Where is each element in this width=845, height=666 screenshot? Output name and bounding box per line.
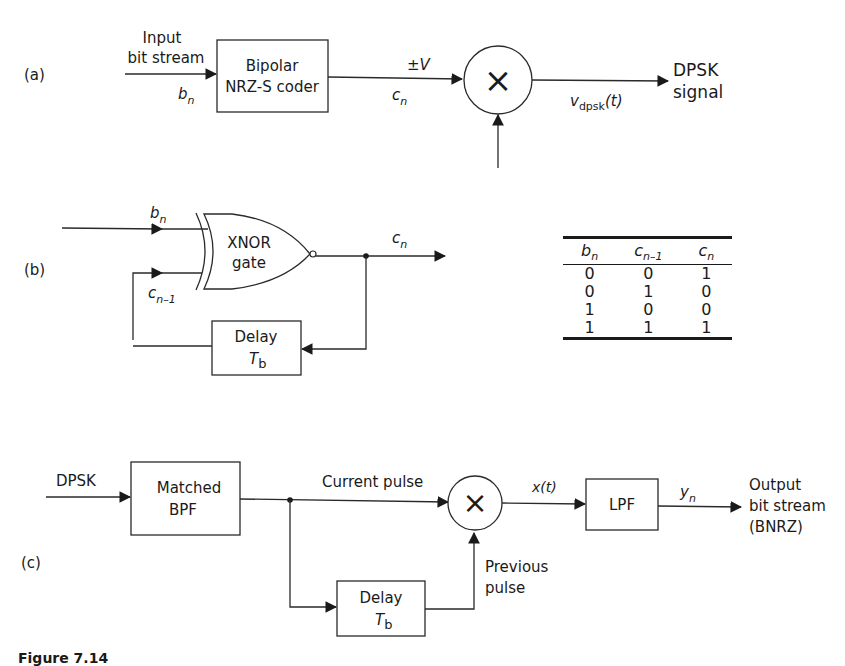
truth-table-header-bn: bn bbox=[563, 238, 616, 265]
coder-out-voltage: ±V bbox=[407, 56, 432, 74]
truth-table-cell: 0 bbox=[616, 301, 680, 319]
feedback-symbol: cn–1 bbox=[148, 284, 176, 306]
delay-b-label: Delay bbox=[234, 328, 277, 346]
panel-label-c: (c) bbox=[21, 554, 41, 572]
current-pulse-arrow bbox=[240, 499, 448, 502]
truth-table-header-cn: cn bbox=[680, 238, 732, 265]
previous-pulse-arrow bbox=[425, 533, 474, 609]
multiplier-c-symbol: × bbox=[462, 485, 487, 520]
input-symbol-a: bn bbox=[178, 85, 195, 107]
truth-table-cell: 1 bbox=[680, 319, 732, 339]
output-label-line3: (BNRZ) bbox=[749, 518, 803, 536]
multiplier-a-symbol: × bbox=[484, 60, 513, 100]
truth-table-cell: 1 bbox=[563, 319, 616, 339]
multiplier-output-symbol: x(t) bbox=[531, 479, 557, 495]
previous-pulse-label-line1: Previous bbox=[485, 558, 549, 576]
truth-table-cell: 1 bbox=[616, 319, 680, 339]
current-pulse-label: Current pulse bbox=[322, 473, 423, 491]
coder-to-multiplier-arrow bbox=[328, 77, 462, 79]
truth-table-row: 0 1 0 bbox=[563, 283, 732, 301]
previous-pulse-label-line2: pulse bbox=[485, 579, 525, 597]
dpsk-output-label-line2: signal bbox=[673, 82, 723, 102]
branch-to-delay-arrow bbox=[290, 500, 336, 607]
matched-bpf-label-line1: Matched bbox=[157, 479, 222, 497]
lpf-label: LPF bbox=[609, 496, 635, 514]
diagram-a: (a) Input bit stream bn Bipolar NRZ-S co… bbox=[24, 29, 723, 168]
xnor-truth-table: bn cn–1 cn 0 0 1 0 1 0 1 0 0 1 1 1 bbox=[563, 236, 732, 340]
multiplier-output-arrow bbox=[502, 503, 585, 504]
feedback-wire-to-delay bbox=[302, 256, 366, 349]
dpsk-output-label-line1: DPSK bbox=[673, 60, 719, 80]
xnor-gate-extra-curve bbox=[196, 213, 205, 290]
truth-table-cell: 0 bbox=[563, 265, 616, 284]
input-label-a-line1: Input bbox=[143, 29, 182, 47]
coder-out-symbol: cn bbox=[392, 86, 407, 108]
bipolar-nrzs-coder-block bbox=[217, 40, 328, 112]
xnor-inversion-bubble bbox=[310, 251, 316, 257]
truth-table-cell: 1 bbox=[563, 301, 616, 319]
matched-bpf-label-line2: BPF bbox=[169, 501, 197, 519]
dpsk-input-label: DPSK bbox=[56, 472, 97, 490]
output-label-line1: Output bbox=[749, 476, 801, 494]
truth-table-row: 1 0 0 bbox=[563, 301, 732, 319]
truth-table-row: 1 1 1 bbox=[563, 319, 732, 339]
lpf-output-symbol: yn bbox=[679, 483, 696, 505]
panel-label-a: (a) bbox=[24, 66, 45, 84]
matched-bpf-block bbox=[131, 462, 240, 535]
figure-caption: Figure 7.14 bbox=[18, 650, 108, 666]
truth-table-header-row: bn cn–1 cn bbox=[563, 238, 732, 265]
output-label-line2: bit stream bbox=[749, 497, 826, 515]
delay-c-label: Delay bbox=[359, 589, 402, 607]
lpf-output-arrow bbox=[658, 506, 741, 507]
panel-label-b: (b) bbox=[24, 261, 45, 279]
xnor-gate-label-line1: XNOR bbox=[227, 234, 271, 252]
truth-table-cell: 0 bbox=[680, 283, 732, 301]
input-label-a-line2: bit stream bbox=[128, 49, 205, 67]
truth-table-cell: 1 bbox=[680, 265, 732, 284]
diagram-b: (b) bn cn–1 XNOR gate cn Delay Tb bbox=[24, 204, 445, 375]
truth-table-cell: 0 bbox=[680, 301, 732, 319]
coder-label-line2: NRZ-S coder bbox=[225, 78, 320, 96]
coder-label-line1: Bipolar bbox=[246, 57, 300, 75]
truth-table-cell: 0 bbox=[616, 265, 680, 284]
xnor-input-arrow-start bbox=[62, 228, 162, 229]
diagram-c: (c) DPSK Matched BPF Current pulse Delay… bbox=[21, 462, 826, 636]
xnor-gate-label-line2: gate bbox=[232, 254, 266, 272]
truth-table-cell: 1 bbox=[616, 283, 680, 301]
dpsk-output-arrow bbox=[532, 80, 668, 81]
xnor-output-symbol: cn bbox=[392, 229, 407, 251]
truth-table-cell: 0 bbox=[563, 283, 616, 301]
truth-table-header-cn-1: cn–1 bbox=[616, 238, 680, 265]
truth-table-row: 0 0 1 bbox=[563, 265, 732, 284]
dpsk-output-symbol: vdpsk(t) bbox=[570, 92, 623, 113]
xnor-input-symbol: bn bbox=[150, 204, 167, 226]
